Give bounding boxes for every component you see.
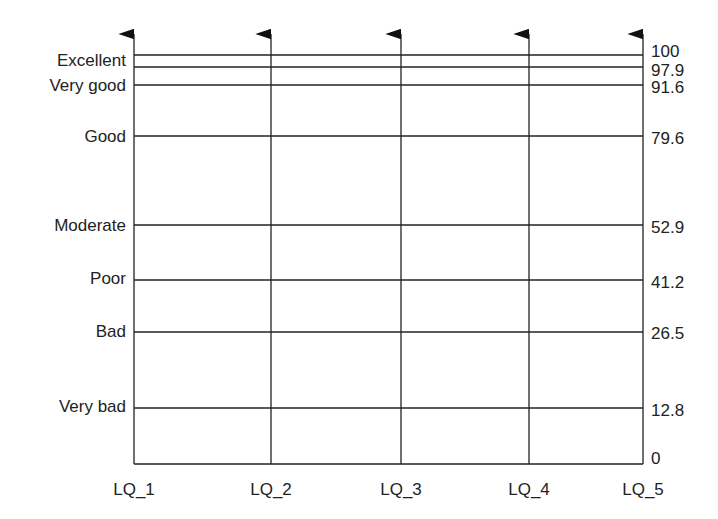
value-79-6: 79.6 [651,130,684,147]
value-97-9: 97.9 [651,62,684,79]
label-very-good: Very good [4,77,126,94]
level-lines [134,55,643,464]
value-0: 0 [651,450,660,467]
x-label-lq5: LQ_5 [622,480,664,500]
label-excellent: Excellent [4,52,126,69]
x-label-lq3: LQ_3 [380,480,422,500]
label-very-bad: Very bad [4,398,126,415]
x-label-lq4: LQ_4 [508,480,550,500]
value-41-2: 41.2 [651,274,684,291]
value-100: 100 [651,43,679,60]
value-91-6: 91.6 [651,79,684,96]
x-label-lq2: LQ_2 [250,480,292,500]
label-bad: Bad [4,323,126,340]
label-moderate: Moderate [4,217,126,234]
value-12-8: 12.8 [651,402,684,419]
x-label-lq1: LQ_1 [113,480,155,500]
label-poor: Poor [4,270,126,287]
value-26-5: 26.5 [651,325,684,342]
label-good: Good [4,128,126,145]
vertical-axes [134,34,643,464]
value-52-9: 52.9 [651,219,684,236]
